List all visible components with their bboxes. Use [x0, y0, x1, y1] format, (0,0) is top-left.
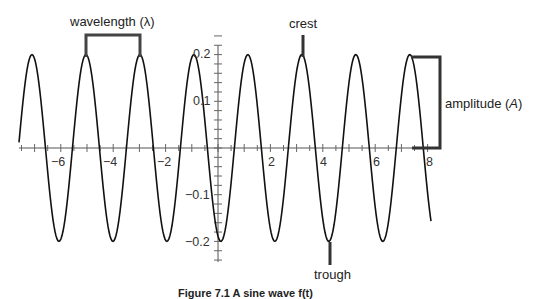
y-tick-label: −0.2: [185, 235, 210, 249]
x-tick-label: 8: [426, 155, 433, 169]
amplitude-label-prefix: amplitude (: [445, 96, 509, 111]
amplitude-label-suffix: ): [518, 96, 522, 111]
amplitude-label: amplitude (A): [445, 96, 522, 111]
amplitude-symbol: A: [509, 96, 518, 111]
crest-label: crest: [289, 16, 317, 31]
x-tick-label: −2: [157, 155, 171, 169]
figure-caption: Figure 7.1 A sine wave f(t): [178, 287, 313, 299]
x-tick-label: 2: [268, 155, 275, 169]
y-tick-label: 0.1: [193, 94, 210, 108]
y-tick-label: 0.2: [193, 47, 210, 61]
wavelength-bracket: [86, 35, 140, 57]
x-tick-label: −6: [51, 155, 65, 169]
wavelength-label: wavelength (λ): [70, 14, 155, 29]
x-tick-label: −4: [103, 155, 117, 169]
y-tick-label: −0.1: [185, 188, 210, 202]
x-tick-label: 4: [320, 155, 327, 169]
x-tick-label: 6: [373, 155, 380, 169]
trough-label: trough: [314, 267, 351, 282]
